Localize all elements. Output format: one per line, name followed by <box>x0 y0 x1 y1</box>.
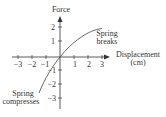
x-tick-label: 3 <box>100 60 104 69</box>
y-tick-label: −3 <box>47 94 56 103</box>
y-tick-label: 2 <box>51 23 55 32</box>
y-tick-label: −2 <box>47 80 56 89</box>
force-displacement-diagram: −3 −2 −1 1 2 3 2 1 −1 −2 −3 Force Displa… <box>0 0 166 117</box>
x-tick-label: 2 <box>87 60 91 69</box>
annotation-spring-breaks-line2: breaks <box>97 37 118 46</box>
y-axis-label: Force <box>52 5 71 14</box>
annotation-spring-compresses-line2: compresses <box>3 97 40 106</box>
x-tick-label: −2 <box>28 60 37 69</box>
x-tick-label: −3 <box>14 60 23 69</box>
x-axis-arrow-icon <box>104 55 110 60</box>
x-axis-unit: (cm) <box>130 58 145 67</box>
y-tick-label: 1 <box>51 37 55 46</box>
x-tick-label: 1 <box>73 60 77 69</box>
y-axis-arrow-icon <box>58 16 63 22</box>
